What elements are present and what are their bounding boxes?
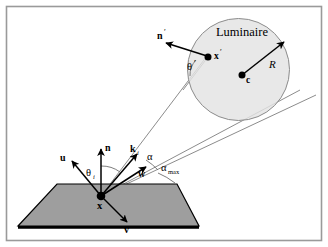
point-c (239, 72, 246, 79)
figure-container: Luminaire x x ′ (0, 0, 328, 247)
label-theta-i-subscript: i (93, 173, 95, 180)
label-vector-n-prime: n (157, 30, 163, 41)
point-x (97, 192, 106, 201)
luminaire-label: Luminaire (216, 25, 269, 39)
label-vector-k-subscript: i (137, 149, 139, 156)
label-alpha-max-subscript: max (168, 168, 180, 175)
label-alpha: α (147, 151, 153, 162)
label-vector-n: n (105, 142, 111, 153)
label-alpha-max: α (161, 162, 167, 173)
luminaire-geometry-diagram: Luminaire x x ′ (0, 0, 328, 247)
label-vector-u: u (60, 152, 66, 163)
prime-mark-theta: ′ (194, 59, 196, 68)
prime-mark-n: ′ (164, 28, 166, 37)
label-point-x: x (97, 200, 103, 211)
label-vector-k: k (130, 143, 136, 154)
label-theta-i: θ (86, 167, 91, 178)
label-point-x-prime: x (214, 51, 219, 61)
label-vector-v: v (124, 224, 129, 235)
label-radius-R: R (268, 58, 276, 70)
label-vector-w: w (138, 168, 146, 179)
prime-mark-x: ′ (220, 48, 222, 57)
label-point-c: c (246, 75, 250, 85)
label-theta-prime: θ (187, 61, 192, 72)
point-x-prime (205, 54, 212, 61)
